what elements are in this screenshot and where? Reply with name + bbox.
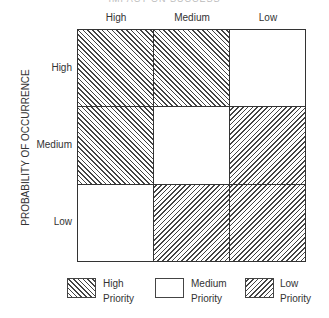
cell-medium-low bbox=[229, 106, 306, 185]
legend-swatch-high bbox=[67, 278, 96, 298]
legend-label-medium: Medium Priority bbox=[191, 276, 227, 306]
cell-medium-high bbox=[77, 106, 154, 185]
cell-high-high bbox=[77, 29, 154, 107]
row-header-high: High bbox=[22, 62, 72, 73]
legend-label-high: High Priority bbox=[103, 276, 134, 306]
legend-label-low: Low Priority bbox=[280, 276, 311, 306]
legend-swatch-low bbox=[245, 278, 274, 298]
row-header-low: Low bbox=[22, 216, 72, 227]
cell-low-high bbox=[77, 184, 154, 262]
col-header-low: Low bbox=[230, 12, 306, 23]
cell-low-medium bbox=[153, 184, 230, 262]
col-header-medium: Medium bbox=[154, 12, 230, 23]
cell-low-low bbox=[229, 184, 306, 262]
col-header-high: High bbox=[78, 12, 154, 23]
row-header-medium: Medium bbox=[22, 139, 72, 150]
cell-medium-medium bbox=[153, 106, 230, 185]
legend-swatch-medium bbox=[155, 278, 184, 298]
cell-high-low bbox=[229, 29, 306, 107]
x-axis-title: IMPACT ON SUCCESS bbox=[0, 0, 329, 4]
cell-high-medium bbox=[153, 29, 230, 107]
